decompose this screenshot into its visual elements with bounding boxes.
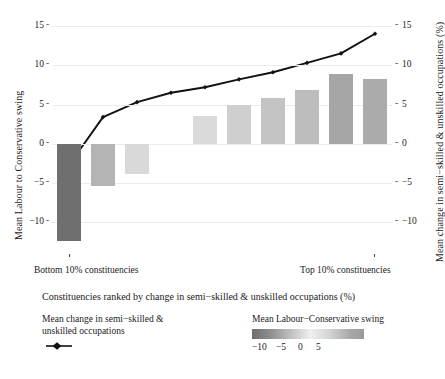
- y-axis-right-tick-label: 10: [402, 60, 434, 70]
- colorbar-swatch: [252, 329, 364, 339]
- y-axis-right-tick-label: 0: [402, 139, 434, 149]
- line-with-point-marker-icon: [45, 341, 73, 351]
- bar: [193, 116, 217, 144]
- colorbar-tick-labels: −10−505: [250, 342, 370, 354]
- data-point-marker: [237, 77, 242, 82]
- bar: [57, 144, 81, 241]
- colorbar-tick-label: 5: [316, 342, 321, 352]
- plot-area: [52, 18, 392, 250]
- colorbar-tick-label: −5: [276, 342, 286, 352]
- bar: [363, 79, 387, 144]
- colorbar-tick-label: −10: [252, 342, 267, 352]
- y-axis-right-tick-label: 15: [402, 21, 434, 31]
- y-axis-left-title: Mean Labour to Conservative swing: [13, 91, 24, 240]
- y-axis-left-tick-mark: -: [46, 177, 49, 187]
- data-point-marker: [271, 70, 276, 75]
- y-axis-left-tick-label: 10: [14, 60, 44, 70]
- bar: [295, 90, 319, 143]
- y-axis-left-tick-mark: -: [46, 59, 49, 69]
- x-annotation-bottom-decile: Bottom 10% constituencies: [34, 265, 139, 275]
- bar: [261, 98, 285, 144]
- y-axis-right-tick-label: −5: [402, 178, 434, 188]
- y-axis-right-title: Mean change in semi−skilled & unskilled …: [434, 22, 445, 262]
- data-point-marker: [169, 90, 174, 95]
- bar: [125, 144, 149, 175]
- y-axis-right-tick-mark: -: [395, 59, 398, 69]
- x-tick-mark-left: [69, 254, 70, 257]
- gridline: [52, 222, 392, 223]
- y-axis-right-tick-mark: -: [395, 177, 398, 187]
- legend-line-title-line2: unskilled occupations: [42, 325, 217, 337]
- y-axis-left-tick-label: 15: [14, 21, 44, 31]
- legend-colorbar: Mean Labour−Conservative swing −10−505: [252, 313, 427, 325]
- bar: [329, 74, 353, 144]
- y-axis-right-tick-mark: -: [395, 20, 398, 30]
- y-axis-right-tick-label: −10: [402, 217, 434, 227]
- legend-line-title-line1: Mean change in semi−skilled &: [42, 313, 217, 325]
- gridline: [52, 65, 392, 66]
- y-axis-left-tick-mark: -: [46, 216, 49, 226]
- y-axis-left-tick-mark: -: [46, 138, 49, 148]
- x-axis-title: Constituencies ranked by change in semi−…: [42, 291, 355, 302]
- y-axis-left-tick-mark: -: [46, 99, 49, 109]
- x-annotation-top-decile: Top 10% constituencies: [300, 265, 391, 275]
- data-point-marker: [203, 85, 208, 90]
- legend-colorbar-title: Mean Labour−Conservative swing: [252, 313, 427, 325]
- bar: [91, 144, 115, 186]
- y-axis-left-tick-mark: -: [46, 20, 49, 30]
- colorbar-tick-label: 0: [298, 342, 303, 352]
- y-axis-right-tick-mark: -: [395, 99, 398, 109]
- gridline: [52, 26, 392, 27]
- bar: [227, 105, 251, 144]
- legend-line-series: Mean change in semi−skilled & unskilled …: [42, 313, 217, 337]
- x-tick-mark-right: [374, 254, 375, 257]
- y-axis-right-tick-label: 5: [402, 100, 434, 110]
- y-axis-right-tick-mark: -: [395, 138, 398, 148]
- y-axis-right-tick-mark: -: [395, 216, 398, 226]
